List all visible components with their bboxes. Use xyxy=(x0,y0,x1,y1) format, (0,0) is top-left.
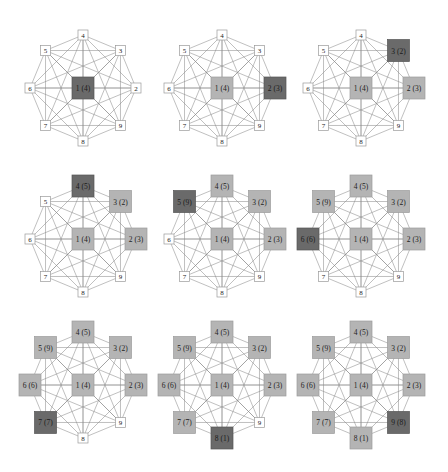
node-label: 4 (5) xyxy=(76,182,91,191)
node-4-visited: 4 (5) xyxy=(211,175,233,197)
node-label: 2 (3) xyxy=(129,235,144,244)
node-label: 4 (5) xyxy=(215,328,230,337)
node-label: 7 xyxy=(183,122,187,130)
node-7-small: 7 xyxy=(180,120,190,130)
node-label: 6 (6) xyxy=(301,381,316,390)
node-label: 3 (2) xyxy=(113,344,128,353)
node-label: 7 xyxy=(322,273,326,281)
node-4-small: 4 xyxy=(217,30,227,40)
node-8-small: 8 xyxy=(78,136,88,146)
node-label: 1 (4) xyxy=(215,84,230,93)
node-label: 6 (6) xyxy=(23,381,38,390)
node-label: 1 (4) xyxy=(76,84,91,93)
node-label: 9 xyxy=(258,273,262,281)
node-label: 7 (7) xyxy=(38,418,53,427)
node-label: 3 (2) xyxy=(391,47,406,56)
node-label: 2 (3) xyxy=(268,84,283,93)
node-label: 3 (2) xyxy=(252,198,267,207)
node-3-visited: 3 (2) xyxy=(387,191,409,213)
node-8-small: 8 xyxy=(217,136,227,146)
node-label: 8 xyxy=(81,138,85,146)
node-label: 9 xyxy=(119,122,123,130)
node-label: 1 (4) xyxy=(215,235,230,244)
node-label: 4 xyxy=(359,32,363,40)
node-label: 6 xyxy=(167,236,171,244)
node-8-small: 8 xyxy=(78,287,88,297)
node-label: 2 (3) xyxy=(407,381,422,390)
node-1-visited: 1 (4) xyxy=(72,228,94,250)
node-label: 7 xyxy=(322,122,326,130)
node-7-small: 7 xyxy=(41,271,51,281)
node-label: 7 xyxy=(183,273,187,281)
node-7-small: 7 xyxy=(319,271,329,281)
node-6-small: 6 xyxy=(164,83,174,93)
node-6-current: 6 (6) xyxy=(297,228,319,250)
node-3-current: 3 (2) xyxy=(387,40,409,62)
node-label: 9 xyxy=(258,419,262,427)
node-2-current: 2 (3) xyxy=(264,77,286,99)
node-2-visited: 2 (3) xyxy=(264,228,286,250)
node-label: 6 xyxy=(28,236,32,244)
node-label: 4 (5) xyxy=(354,328,369,337)
node-2-visited: 2 (3) xyxy=(125,374,147,396)
node-label: 3 (2) xyxy=(113,198,128,207)
node-label: 5 (9) xyxy=(316,344,331,353)
node-8-small: 8 xyxy=(78,433,88,443)
node-label: 8 xyxy=(359,138,363,146)
node-9-small: 9 xyxy=(115,417,125,427)
panel-9: 1 (4)2 (3)3 (2)4 (5)5 (9)6 (6)7 (7)8 (1)… xyxy=(297,321,425,449)
node-5-visited: 5 (9) xyxy=(313,191,335,213)
node-label: 7 (7) xyxy=(316,418,331,427)
node-label: 7 xyxy=(44,122,48,130)
node-label: 9 xyxy=(397,273,401,281)
node-9-small: 9 xyxy=(254,271,264,281)
node-3-visited: 3 (2) xyxy=(248,191,270,213)
node-9-small: 9 xyxy=(115,271,125,281)
node-9-current: 9 (8) xyxy=(387,411,409,433)
node-4-visited: 4 (5) xyxy=(350,175,372,197)
node-2-visited: 2 (3) xyxy=(403,374,425,396)
node-label: 1 (4) xyxy=(76,235,91,244)
node-5-small: 5 xyxy=(41,197,51,207)
node-label: 3 (2) xyxy=(252,344,267,353)
node-9-small: 9 xyxy=(115,120,125,130)
node-1-current: 1 (4) xyxy=(72,77,94,99)
node-label: 3 xyxy=(258,47,262,55)
panel-7: 1 (4)2 (3)3 (2)4 (5)5 (9)6 (6)7 (7)89 xyxy=(19,321,147,443)
node-label: 3 xyxy=(119,47,123,55)
node-5-visited: 5 (9) xyxy=(35,337,57,359)
node-7-current: 7 (7) xyxy=(35,411,57,433)
node-1-visited: 1 (4) xyxy=(72,374,94,396)
node-label: 9 xyxy=(119,273,123,281)
node-label: 2 (3) xyxy=(268,235,283,244)
node-label: 5 (9) xyxy=(316,198,331,207)
node-8-visited: 8 (1) xyxy=(350,427,372,449)
node-label: 8 xyxy=(81,289,85,297)
node-label: 8 xyxy=(81,435,85,443)
node-6-small: 6 xyxy=(25,234,35,244)
node-label: 1 (4) xyxy=(354,84,369,93)
node-label: 5 (9) xyxy=(38,344,53,353)
node-8-small: 8 xyxy=(356,136,366,146)
node-label: 9 (8) xyxy=(391,418,406,427)
node-label: 2 (3) xyxy=(407,235,422,244)
panel-8: 1 (4)2 (3)3 (2)4 (5)5 (9)6 (6)7 (7)8 (1)… xyxy=(158,321,286,449)
node-label: 4 (5) xyxy=(76,328,91,337)
node-4-visited: 4 (5) xyxy=(350,321,372,343)
node-label: 5 xyxy=(183,47,187,55)
node-6-visited: 6 (6) xyxy=(19,374,41,396)
node-6-small: 6 xyxy=(303,83,313,93)
node-label: 5 xyxy=(44,198,48,206)
node-label: 6 xyxy=(306,85,310,93)
node-label: 5 (9) xyxy=(177,344,192,353)
node-label: 2 xyxy=(134,85,138,93)
node-1-visited: 1 (4) xyxy=(211,77,233,99)
node-5-small: 5 xyxy=(180,46,190,56)
node-3-small: 3 xyxy=(115,46,125,56)
node-9-small: 9 xyxy=(393,271,403,281)
node-label: 5 xyxy=(322,47,326,55)
node-label: 8 xyxy=(220,289,224,297)
node-label: 4 (5) xyxy=(354,182,369,191)
panel-6: 1 (4)2 (3)3 (2)4 (5)5 (9)6 (6)789 xyxy=(297,175,425,297)
node-label: 5 (9) xyxy=(177,198,192,207)
